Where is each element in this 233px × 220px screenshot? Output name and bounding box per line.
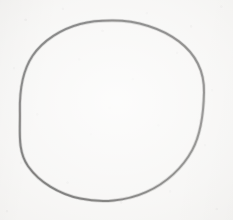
hand-drawn-circle-bleed [20,21,204,201]
hand-drawn-circle [20,21,204,201]
scanned-image-canvas [0,0,233,220]
drawing-layer [0,0,233,220]
